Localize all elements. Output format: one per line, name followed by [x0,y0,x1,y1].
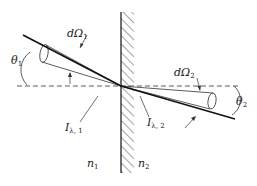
intensity-1-label: Iλ, 1 [65,122,83,137]
theta-1-arc [21,52,30,85]
intensity-1-leader [80,96,98,122]
medium-2-label: n2 [138,158,150,173]
refraction-diagram: dΩ1 θ1 dΩ2 θ2 Iλ, 1 Iλ, 2 n1 n2 [0,0,257,186]
theta-2-label: θ2 [236,96,247,111]
intensity-2-leader [140,96,149,117]
arrow-icon [68,72,72,77]
intensity-2-label: Iλ, 2 [147,117,165,132]
diagram-canvas [0,0,257,186]
medium-1-label: n1 [87,158,99,173]
arrow-icon [198,86,202,92]
theta-1-label: θ1 [11,55,22,70]
interface-hatching [121,12,134,173]
d-omega-2-label: dΩ2 [174,67,195,82]
refracted-ray [121,86,235,119]
arrow-icon [80,43,84,48]
d-omega-1-label: dΩ1 [67,28,88,43]
